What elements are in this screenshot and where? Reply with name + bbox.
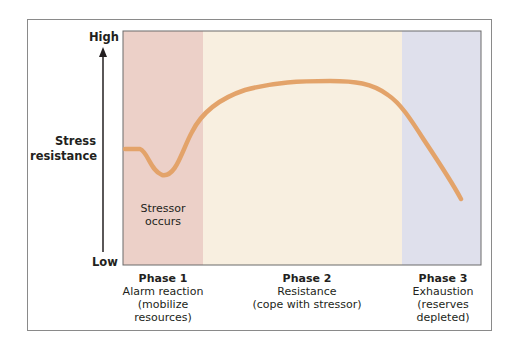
phase2-line2: (cope with stressor) xyxy=(242,298,372,311)
arrow-up-icon xyxy=(99,47,107,57)
phase3-region xyxy=(402,31,481,265)
stressor-line1: Stressor xyxy=(128,202,198,215)
phase1-title: Phase 1 xyxy=(113,272,213,285)
y-low-label: Low xyxy=(92,255,118,269)
phase3-line3: depleted) xyxy=(393,311,493,324)
y-high-label: High xyxy=(89,30,119,44)
phase1-line3: resources) xyxy=(113,311,213,324)
phase2-label: Phase 2 Resistance (cope with stressor) xyxy=(242,272,372,311)
phase2-region xyxy=(203,31,402,265)
phase1-line1: Alarm reaction xyxy=(113,285,213,298)
phase2-title: Phase 2 xyxy=(242,272,372,285)
stressor-annotation: Stressor occurs xyxy=(128,202,198,228)
phase1-line2: (mobilize xyxy=(113,298,213,311)
phase3-line1: Exhaustion xyxy=(393,285,493,298)
phase1-label: Phase 1 Alarm reaction (mobilize resourc… xyxy=(113,272,213,324)
phase3-label: Phase 3 Exhaustion (reserves depleted) xyxy=(393,272,493,324)
phase3-title: Phase 3 xyxy=(393,272,493,285)
y-axis-title: Stress resistance xyxy=(30,134,96,164)
y-axis-title-line2: resistance xyxy=(30,149,96,164)
phase2-line1: Resistance xyxy=(242,285,372,298)
stressor-line2: occurs xyxy=(128,215,198,228)
phase3-line2: (reserves xyxy=(393,298,493,311)
y-axis-title-line1: Stress xyxy=(30,134,96,149)
